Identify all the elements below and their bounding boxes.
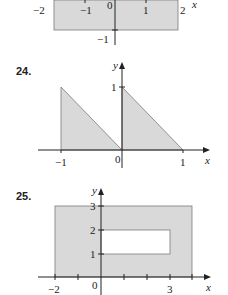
x-tick-label: 3 — [167, 283, 173, 295]
x-axis-label: x — [205, 281, 211, 293]
figure-number: 24. — [16, 65, 31, 77]
y-axis-arrow-icon — [98, 188, 104, 195]
x-tick-label: −1 — [80, 4, 92, 16]
figure-number: 25. — [16, 190, 31, 202]
figure-23: −2 −1 0 1 2 x −1 — [33, 0, 197, 45]
y-axis-label: y — [112, 59, 118, 71]
x-axis-label: x — [204, 154, 210, 166]
y-tick-label: −1 — [97, 33, 109, 45]
y-tick-label: 2 — [90, 224, 96, 236]
unshaded-inner-rectangle — [101, 230, 170, 254]
x-tick-label: 1 — [143, 4, 149, 16]
figures-canvas: −2 −1 0 1 2 x −1 24. y 1 −1 0 1 x 25. — [0, 0, 228, 295]
x-tick-label: 0 — [107, 0, 113, 11]
figure-25: 25. y 3 2 1 −2 0 3 x — [16, 184, 211, 295]
shaded-triangle-left — [61, 87, 122, 150]
y-axis-label: y — [91, 184, 97, 196]
shaded-triangle-right — [122, 87, 183, 150]
x-axis-arrow-icon — [204, 274, 211, 280]
y-tick-label: 1 — [90, 248, 96, 260]
x-tick-label: 2 — [180, 4, 186, 16]
x-tick-label: 0 — [115, 153, 121, 165]
x-tick-label: −2 — [48, 283, 60, 295]
y-axis-arrow-icon — [119, 62, 125, 69]
figure-24: 24. y 1 −1 0 1 x — [16, 59, 210, 168]
x-tick-label: −2 — [33, 4, 45, 16]
x-tick-label: 1 — [180, 156, 186, 168]
x-tick-label: 0 — [92, 279, 98, 291]
x-tick-label: −1 — [55, 156, 67, 168]
x-axis-label: x — [191, 0, 197, 10]
shaded-region — [54, 0, 178, 30]
y-tick-label: 1 — [111, 81, 117, 93]
x-axis-arrow-icon — [203, 147, 210, 153]
y-tick-label: 3 — [90, 200, 96, 212]
